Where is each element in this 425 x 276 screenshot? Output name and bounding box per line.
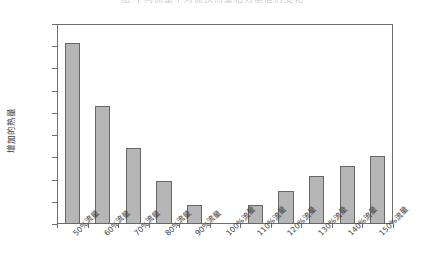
bar-chart-figure: 图 不同流量下对流换热量相对基准的变化 增加的热量 0.0%1.0%2.0%3.… bbox=[0, 0, 425, 276]
y-axis: 0.0%1.0%2.0%3.0%4.0%5.0%6.0%7.0%8.0%9.0% bbox=[0, 0, 57, 250]
chart-title: 图 不同流量下对流换热量相对基准的变化 bbox=[0, 0, 425, 5]
x-axis-tick-mark bbox=[57, 224, 58, 228]
x-axis-tick-mark bbox=[271, 224, 272, 228]
x-axis-tick-mark bbox=[149, 224, 150, 228]
x-axis-tick-mark bbox=[118, 224, 119, 228]
x-axis-tick-mark bbox=[240, 224, 241, 228]
bar[interactable] bbox=[95, 106, 110, 224]
bar[interactable] bbox=[65, 43, 80, 224]
x-axis-tick-mark bbox=[332, 224, 333, 228]
x-axis-tick-mark bbox=[301, 224, 302, 228]
x-axis-tick-mark bbox=[393, 224, 394, 228]
x-axis-tick-mark bbox=[88, 224, 89, 228]
x-axis-tick-mark bbox=[362, 224, 363, 228]
x-axis-tick-mark bbox=[210, 224, 211, 228]
x-axis-tick-mark bbox=[179, 224, 180, 228]
